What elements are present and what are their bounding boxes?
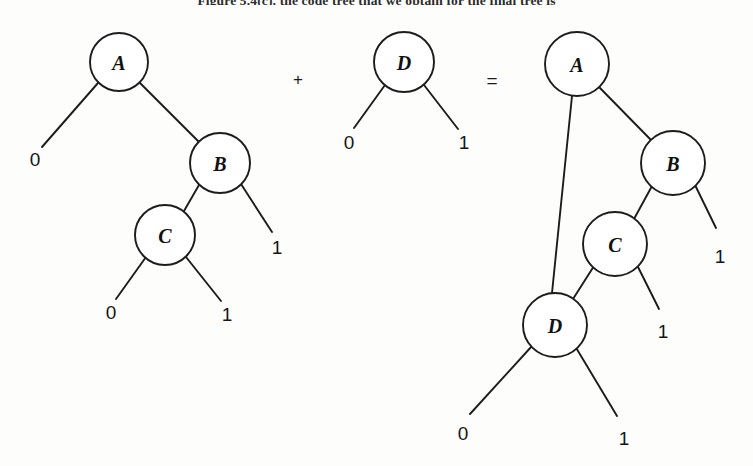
leaf-labels-layer: 0101011101: [30, 132, 726, 449]
edge-tree-result-C-to-D: [573, 266, 594, 299]
leaf-label-tree-result-leaf-C-1: 1: [658, 321, 669, 342]
edge-tree-middle-D-to-leaf-D-1: [424, 85, 458, 129]
edge-tree-result-A-to-B: [599, 87, 651, 140]
leaf-label-tree-middle-leaf-D-0: 0: [344, 132, 355, 153]
edge-tree-left-C-to-leaf-C-1: [186, 257, 221, 301]
figure-root: Figure 5.4(c), the code tree that we obt…: [0, 0, 753, 466]
nodes-layer: ABCDABCD: [90, 32, 705, 357]
node-label-tree-middle-D: D: [396, 52, 411, 74]
edge-tree-middle-D-to-leaf-D-0: [354, 85, 385, 128]
leaf-label-tree-left-leaf-A-0: 0: [30, 149, 41, 170]
node-label-tree-left-A: A: [110, 52, 125, 74]
edge-tree-result-D-to-leaf-D-1: [575, 346, 617, 416]
node-label-tree-result-C: C: [608, 234, 622, 256]
edge-tree-left-B-to-C: [184, 185, 199, 211]
leaf-label-tree-result-leaf-B-1: 1: [715, 246, 726, 267]
leaf-label-tree-result-leaf-D-1: 1: [619, 428, 630, 449]
edge-tree-left-C-to-leaf-C-0: [116, 257, 146, 299]
leaf-label-tree-left-leaf-C-0: 0: [106, 302, 117, 323]
edge-tree-result-B-to-C: [634, 186, 652, 219]
operator-equals: =: [486, 70, 497, 91]
edge-tree-left-A-to-leaf-A-0: [42, 83, 98, 147]
node-label-tree-result-A: A: [568, 54, 583, 76]
node-label-tree-left-B: B: [212, 153, 226, 175]
node-label-tree-result-D: D: [547, 315, 562, 337]
operator-plus: +: [293, 70, 303, 89]
node-label-tree-left-C: C: [158, 225, 172, 247]
edge-tree-result-B-to-leaf-B-1: [695, 185, 716, 228]
tree-diagram-canvas: ABCDABCD 0101011101 +=: [0, 0, 753, 466]
edge-tree-left-B-to-leaf-B-1: [241, 184, 272, 232]
edge-tree-result-C-to-leaf-C-1: [637, 265, 659, 309]
leaf-label-tree-left-leaf-C-1: 1: [222, 304, 233, 325]
leaf-label-tree-result-leaf-D-0: 0: [458, 423, 469, 444]
edge-tree-left-A-to-B: [140, 83, 200, 143]
edge-tree-result-D-to-leaf-D-0: [470, 346, 532, 414]
leaf-label-tree-middle-leaf-D-1: 1: [459, 132, 470, 153]
leaf-label-tree-left-leaf-B-1: 1: [272, 237, 283, 258]
edge-tree-result-A-to-D: [552, 96, 572, 293]
node-label-tree-result-B: B: [665, 153, 679, 175]
